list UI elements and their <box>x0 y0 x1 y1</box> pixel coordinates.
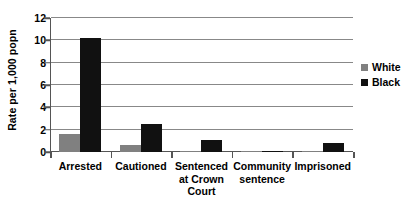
y-axis-tick-label: 8 <box>24 57 46 69</box>
bar <box>59 134 80 152</box>
y-axis-tick-label: 10 <box>24 34 46 46</box>
legend-swatch-icon <box>361 64 368 71</box>
chart-figure: Rate per 1,000 popn 024681012 ArrestedCa… <box>0 0 417 209</box>
y-axis-tick-label: 6 <box>24 79 46 91</box>
bar <box>201 140 222 152</box>
x-axis-tick-mark <box>111 152 113 158</box>
bar <box>120 145 141 152</box>
bar-group <box>293 18 354 152</box>
x-axis-tick-mark <box>232 152 234 158</box>
legend: WhiteBlack <box>361 60 417 90</box>
x-axis-tick-mark <box>353 152 355 158</box>
y-axis-tick-label: 12 <box>24 12 46 24</box>
bar <box>180 151 201 152</box>
x-axis-category-label: Cautioned <box>111 160 172 173</box>
category-label-line: Cautioned <box>111 160 172 173</box>
bar <box>302 151 323 152</box>
x-axis-tick-mark <box>292 152 294 158</box>
category-label-line: Sentenced <box>171 160 232 173</box>
legend-swatch-icon <box>361 79 368 86</box>
bar-group <box>172 18 233 152</box>
legend-item: White <box>361 60 417 74</box>
x-axis-category-label: Sentencedat CrownCourt <box>171 160 232 198</box>
x-axis-category-label: Arrested <box>50 160 111 173</box>
x-axis-tick-mark <box>50 152 52 158</box>
bar <box>141 124 162 152</box>
bar <box>241 151 262 152</box>
category-label-line: Imprisoned <box>292 160 353 173</box>
x-axis-category-label: Imprisoned <box>292 160 353 173</box>
category-label-line: sentence <box>232 173 293 186</box>
y-axis-tick-label: 2 <box>24 124 46 136</box>
legend-item: Black <box>361 75 417 89</box>
bar <box>262 151 283 152</box>
category-label-line: Court <box>171 185 232 198</box>
y-axis-title-text: Rate per 1,000 popn <box>6 29 18 131</box>
legend-label: White <box>372 61 401 73</box>
y-axis-tick-label: 4 <box>24 101 46 113</box>
bar-group <box>233 18 294 152</box>
category-label-line: Arrested <box>50 160 111 173</box>
x-axis-category-label: Communitysentence <box>232 160 293 185</box>
legend-label: Black <box>372 76 400 88</box>
y-axis-title: Rate per 1,000 popn <box>0 0 24 160</box>
bar-group <box>51 18 112 152</box>
bar <box>323 143 344 152</box>
plot-area <box>50 18 353 152</box>
bar <box>80 38 101 152</box>
x-axis-tick-mark <box>171 152 173 158</box>
y-axis-tick-label: 0 <box>24 146 46 158</box>
category-label-line: Community <box>232 160 293 173</box>
bar-group <box>112 18 173 152</box>
category-label-line: at Crown <box>171 173 232 186</box>
